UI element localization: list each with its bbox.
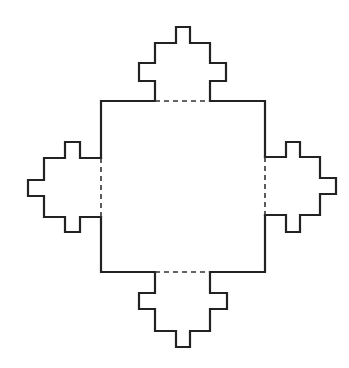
bottom-bump xyxy=(139,272,227,347)
square-top-left-segment xyxy=(101,101,155,158)
square-bottom-left-segment xyxy=(101,217,155,272)
square-outline xyxy=(101,101,265,272)
square-bottom-right-segment xyxy=(210,215,265,272)
fractal-diagram xyxy=(0,0,349,368)
dashed-removed-segments xyxy=(101,101,265,272)
bumps xyxy=(28,27,336,347)
square-top-right-segment xyxy=(210,101,265,157)
left-bump xyxy=(28,142,101,232)
right-bump xyxy=(265,142,336,232)
top-bump xyxy=(139,27,226,101)
